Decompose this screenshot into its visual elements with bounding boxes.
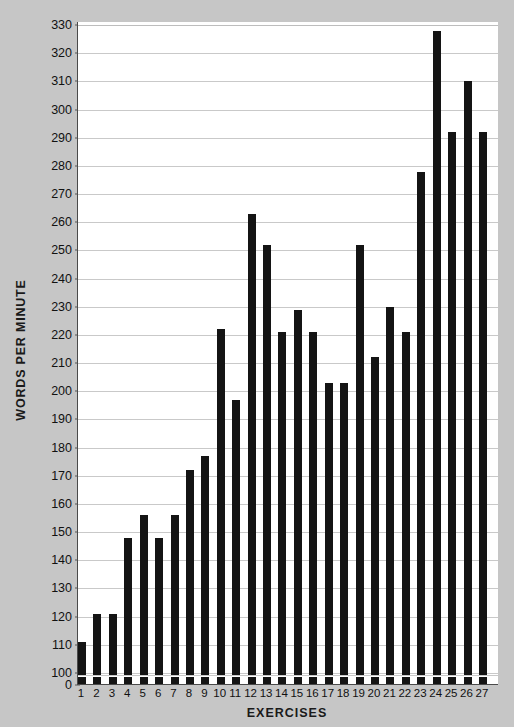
x-axis-tick: 22 [398, 688, 411, 700]
x-axis-tick: 27 [476, 688, 489, 700]
x-axis-tick: 9 [201, 688, 207, 700]
x-axis-tick: 14 [275, 688, 288, 700]
bar [124, 538, 132, 675]
x-axis-tick: 25 [445, 688, 458, 700]
y-axis-tick: 110 [52, 639, 72, 652]
bar [232, 400, 240, 675]
x-axis-line [78, 684, 498, 686]
plot-area [77, 22, 498, 685]
y-axis-tick: 240 [51, 272, 72, 285]
x-axis-tick: 15 [290, 688, 303, 700]
y-axis-tick: 290 [51, 131, 72, 144]
x-axis-tick: 3 [109, 688, 115, 700]
y-axis-tick: 320 [51, 47, 72, 60]
y-axis-tick: 180 [51, 441, 72, 454]
bar [356, 245, 364, 675]
bar [201, 456, 209, 675]
y-axis-tick: 160 [51, 498, 72, 511]
bar [417, 172, 425, 675]
x-axis-tick: 19 [352, 688, 365, 700]
bar [263, 245, 271, 675]
x-axis-tick: 13 [260, 688, 273, 700]
x-axis-tick: 11 [229, 688, 241, 700]
y-axis-tick-labels: 3303203103002902802702602502402302202102… [36, 0, 76, 727]
x-axis-tick: 24 [429, 688, 442, 700]
bar [371, 357, 379, 675]
x-axis-title: EXERCISES [77, 706, 497, 720]
x-axis-tick: 10 [213, 688, 226, 700]
x-axis-tick: 17 [321, 688, 334, 700]
y-axis-tick: 190 [51, 413, 72, 426]
bar [340, 383, 348, 675]
bar [402, 332, 410, 675]
bar [109, 614, 117, 675]
bar [309, 332, 317, 675]
y-axis-title: WORDS PER MINUTE [6, 0, 36, 700]
y-axis-tick: 300 [51, 103, 72, 116]
bar [78, 642, 86, 675]
bar [140, 515, 148, 675]
x-axis-tick: 8 [186, 688, 192, 700]
y-axis-tick: 310 [51, 75, 72, 88]
x-axis-tick: 2 [93, 688, 99, 700]
y-axis-tick: 130 [51, 582, 72, 595]
x-axis-tick-labels: 1234567891011121314151617181920212223242… [77, 688, 497, 704]
y-axis-title-text: WORDS PER MINUTE [14, 279, 28, 420]
bar [464, 81, 472, 675]
x-axis-tick: 1 [78, 688, 84, 700]
y-axis-tick: 250 [51, 244, 72, 257]
x-axis-tick: 7 [170, 688, 176, 700]
y-axis-tick: 0 [65, 679, 72, 692]
x-axis-tick: 26 [460, 688, 473, 700]
y-axis-tick: 150 [51, 526, 72, 539]
y-axis-tick: 140 [51, 554, 72, 567]
bar [248, 214, 256, 675]
y-axis-tick: 220 [51, 329, 72, 342]
chart-page: WORDS PER MINUTE 33032031030029028027026… [0, 0, 514, 727]
x-axis-tick: 16 [306, 688, 319, 700]
x-axis-tick: 6 [155, 688, 161, 700]
x-axis-tick: 20 [368, 688, 381, 700]
bar [386, 307, 394, 675]
x-axis-tick: 4 [124, 688, 130, 700]
y-axis-tick: 270 [51, 188, 72, 201]
bar [433, 31, 441, 675]
bar [186, 470, 194, 675]
bar [325, 383, 333, 675]
x-axis-tick: 18 [337, 688, 350, 700]
bar [479, 132, 487, 675]
bar [171, 515, 179, 675]
bar [278, 332, 286, 675]
bar [448, 132, 456, 675]
y-axis-tick: 260 [51, 216, 72, 229]
x-axis-tick: 23 [414, 688, 427, 700]
x-axis-tick: 12 [244, 688, 257, 700]
y-axis-tick: 170 [51, 470, 72, 483]
y-axis-tick: 280 [51, 160, 72, 173]
y-axis-tick: 120 [51, 610, 72, 623]
bar [155, 538, 163, 675]
bar [294, 310, 302, 675]
y-axis-tick: 200 [51, 385, 72, 398]
x-axis-tick: 5 [139, 688, 145, 700]
y-axis-tick: 330 [51, 19, 72, 32]
y-axis-tick: 230 [51, 300, 72, 313]
y-axis-tick: 210 [51, 357, 72, 370]
bar [93, 614, 101, 675]
x-axis-tick: 21 [383, 688, 396, 700]
bar [217, 329, 225, 675]
bar-series [78, 22, 498, 685]
